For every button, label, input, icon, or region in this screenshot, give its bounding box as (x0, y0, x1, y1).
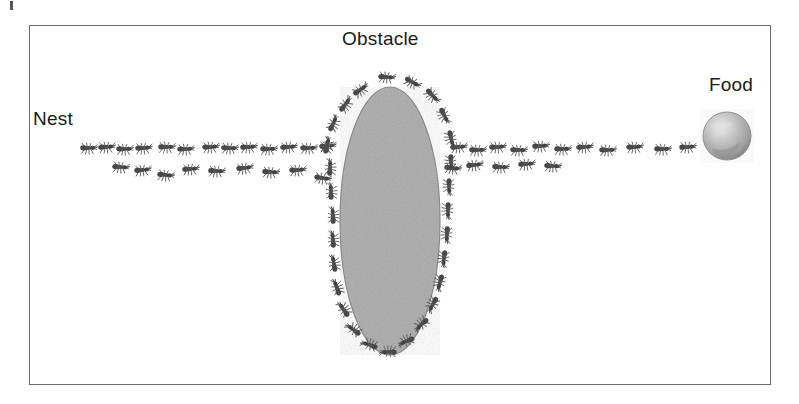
obstacle-label: Obstacle (342, 28, 419, 50)
figure-root: Nest Obstacle Food (0, 0, 799, 404)
page-corner-mark (10, 1, 13, 10)
figure-frame-border (29, 25, 771, 385)
food-label: Food (709, 74, 753, 96)
nest-label: Nest (33, 108, 73, 130)
